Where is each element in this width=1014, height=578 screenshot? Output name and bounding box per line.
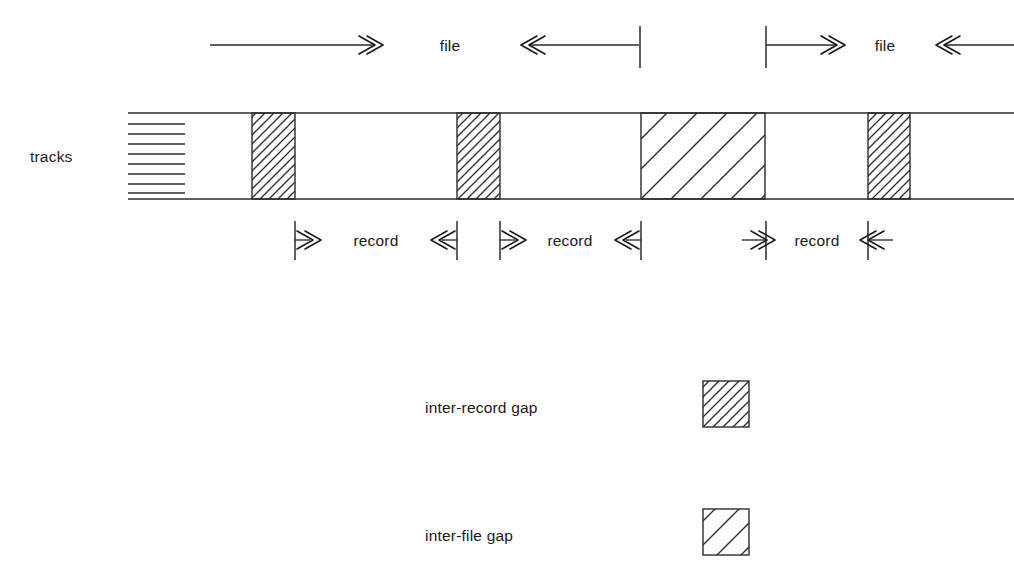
legend-swatch-inter-record-gap xyxy=(703,381,749,427)
legend-label-inter-record-gap: inter-record gap xyxy=(425,399,538,416)
record-dimension-1: record xyxy=(295,221,457,260)
record-dimension-group: record record xyxy=(295,221,893,260)
inter-file-gap-block xyxy=(641,113,765,199)
legend-row-inter-record-gap: inter-record gap xyxy=(425,381,749,427)
file-label-left: file xyxy=(440,37,461,54)
inter-record-gap-block-1 xyxy=(252,113,295,199)
record-dimension-3: record xyxy=(742,221,893,260)
record-label-3: record xyxy=(794,232,839,249)
inter-record-gap-block-3 xyxy=(868,113,910,199)
file-left-end-arrow xyxy=(521,26,640,68)
record-label-1: record xyxy=(353,232,398,249)
legend: inter-record gap inter-file gap xyxy=(425,381,749,555)
file-dimension-group: file file xyxy=(210,26,1014,68)
tracks-label: tracks xyxy=(30,148,73,165)
legend-label-inter-file-gap: inter-file gap xyxy=(425,527,513,544)
inter-record-gap-block-2 xyxy=(457,113,500,199)
legend-swatch-inter-file-gap xyxy=(703,509,749,555)
record-dimension-2: record xyxy=(500,221,641,260)
file-left-start-arrow xyxy=(210,36,383,54)
legend-row-inter-file-gap: inter-file gap xyxy=(425,509,749,555)
file-label-right: file xyxy=(875,37,896,54)
tape-diagram: file file xyxy=(0,0,1014,578)
file-right-end-arrow xyxy=(936,36,1014,54)
diagram-canvas: file file xyxy=(0,0,1014,578)
record-label-2: record xyxy=(547,232,592,249)
file-right-start-arrow xyxy=(766,26,845,68)
tape-band xyxy=(128,113,1014,199)
